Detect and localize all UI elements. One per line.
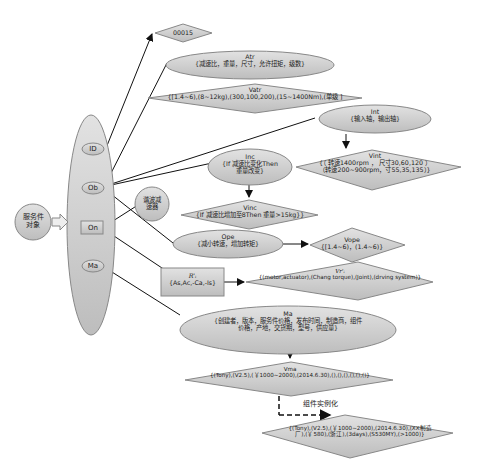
vr-node[interactable]: Vr'ᵢ {(motor,actuator),(Chang torque),(J… bbox=[250, 268, 430, 281]
ma-node[interactable]: Ma {创建者，版本，服务件价格，发布时间，制造商，组件 价格，产地，交货期，型… bbox=[185, 310, 391, 332]
atr-node[interactable]: Atr {减速比，重量，尺寸，允许扭矩，级数} bbox=[170, 53, 330, 67]
edge-ob-to-atr bbox=[106, 63, 167, 183]
int-node[interactable]: Int {输入轴，输出轴} bbox=[330, 108, 420, 122]
id-value-node[interactable]: 00015 bbox=[163, 29, 203, 36]
vope-node[interactable]: Vope {[1.4~6)，(1.4~6)} bbox=[317, 236, 387, 250]
instance-node[interactable]: {(Tony),(V2.5),(￥1000~2000),(2014.6.30),… bbox=[270, 425, 450, 438]
vinc-node[interactable]: Vinc {If 减速比增加至8Then 重量>15kg}} bbox=[185, 204, 315, 218]
hollow-arrow-icon bbox=[52, 214, 68, 230]
attribute-node-ma[interactable]: Ma bbox=[82, 262, 104, 270]
attribute-node-ob[interactable]: Ob bbox=[82, 184, 104, 192]
attribute-node-on[interactable]: On bbox=[82, 224, 104, 232]
instantiation-label: 组件实例化 bbox=[290, 400, 350, 408]
inc-node[interactable]: Inc {If 减速比变化Then 重量改变} bbox=[210, 153, 290, 175]
vma-node[interactable]: Vma {(Tony),(V2.5),(￥1000~2000),(2014.6.… bbox=[190, 366, 390, 379]
edge-ob-to-inc bbox=[102, 163, 212, 187]
ope-node[interactable]: Ope {减小转速，增加转矩} bbox=[178, 233, 278, 247]
on-value-node[interactable]: 谐波减 速器 bbox=[137, 196, 167, 210]
vatr-node[interactable]: Vatr {[1.4~6),(8~12kg),(300,100,200),(15… bbox=[160, 86, 350, 100]
vint-node[interactable]: Vint {（ 转速1400rpm ， 尺寸30,60,120 ） （转速200… bbox=[300, 152, 450, 174]
attribute-node-id[interactable]: ID bbox=[82, 145, 104, 153]
r-node[interactable]: R'ᵢ {As,Ac,-Ca,-Is} bbox=[161, 272, 224, 286]
root-object-label[interactable]: 服务件 对象 bbox=[18, 213, 48, 229]
